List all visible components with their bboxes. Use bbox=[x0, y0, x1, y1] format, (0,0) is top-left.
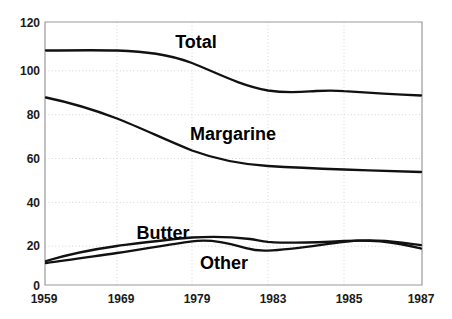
series-label-butter: Butter bbox=[137, 223, 190, 243]
xtick-label-1987: 1987 bbox=[408, 292, 435, 306]
horizontal-gridlines bbox=[45, 71, 422, 246]
series-label-margarine: Margarine bbox=[190, 124, 276, 144]
xtick-label-1985: 1985 bbox=[336, 292, 363, 306]
series-line-total bbox=[46, 50, 421, 95]
series-label-total: Total bbox=[175, 32, 217, 52]
chart-screenshot: 120 100 80 60 40 20 0 1959 1969 1979 198… bbox=[0, 0, 452, 319]
ytick-label-60: 60 bbox=[27, 152, 41, 166]
ytick-label-40: 40 bbox=[27, 196, 41, 210]
xtick-label-1983: 1983 bbox=[260, 292, 287, 306]
ytick-label-0: 0 bbox=[33, 279, 40, 293]
line-chart: 120 100 80 60 40 20 0 1959 1969 1979 198… bbox=[0, 0, 452, 319]
xtick-label-1979: 1979 bbox=[184, 292, 211, 306]
series-label-other: Other bbox=[200, 253, 248, 273]
xtick-label-1969: 1969 bbox=[108, 292, 135, 306]
xtick-label-1959: 1959 bbox=[31, 292, 58, 306]
ytick-label-20: 20 bbox=[27, 239, 41, 253]
ytick-label-80: 80 bbox=[27, 108, 41, 122]
ytick-label-120: 120 bbox=[20, 16, 40, 30]
ytick-label-100: 100 bbox=[20, 64, 40, 78]
